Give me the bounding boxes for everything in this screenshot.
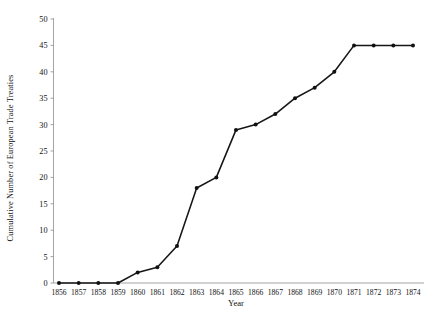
- x-tick-label: 1864: [209, 288, 224, 297]
- series-line-treaties: [59, 45, 413, 283]
- x-tick-label: 1858: [91, 288, 106, 297]
- y-tick-label: 15: [39, 200, 47, 209]
- y-tick-label: 35: [39, 94, 47, 103]
- x-tick-label: 1865: [228, 288, 243, 297]
- x-tick-label: 1870: [327, 288, 342, 297]
- x-tick-label: 1868: [287, 288, 302, 297]
- x-tick-label: 1872: [366, 288, 381, 297]
- x-tick-label: 1857: [71, 288, 86, 297]
- x-tick-label: 1874: [405, 288, 420, 297]
- data-point: [195, 186, 199, 190]
- x-tick-label: 1866: [248, 288, 263, 297]
- x-tick-label: 1856: [51, 288, 66, 297]
- y-tick-label: 30: [39, 121, 47, 130]
- y-tick-label: 5: [43, 253, 47, 262]
- data-point: [352, 43, 356, 47]
- data-point: [273, 112, 277, 116]
- x-tick-label: 1860: [130, 288, 145, 297]
- data-point: [136, 270, 140, 274]
- y-tick-label: 0: [43, 279, 47, 288]
- data-point: [313, 86, 317, 90]
- y-tick-label: 40: [39, 68, 47, 77]
- x-axis-ticks: 1856185718581859186018611862186318641865…: [51, 288, 420, 297]
- data-point: [155, 265, 159, 269]
- data-point: [391, 43, 395, 47]
- data-point: [234, 128, 238, 132]
- x-tick-label: 1871: [346, 288, 361, 297]
- y-tick-label: 50: [39, 15, 47, 24]
- y-tick-label: 20: [39, 173, 47, 182]
- y-tick-label: 45: [39, 41, 47, 50]
- y-axis-ticks: 05101520253035404550: [39, 15, 53, 288]
- data-point: [293, 96, 297, 100]
- x-tick-label: 1863: [189, 288, 204, 297]
- y-tick-label: 10: [39, 226, 47, 235]
- data-point: [96, 281, 100, 285]
- x-tick-label: 1873: [386, 288, 401, 297]
- x-tick-label: 1859: [110, 288, 125, 297]
- y-tick-label: 25: [39, 147, 47, 156]
- data-point: [372, 43, 376, 47]
- data-point: [57, 281, 61, 285]
- data-point: [332, 70, 336, 74]
- x-tick-label: 1861: [150, 288, 165, 297]
- x-tick-label: 1869: [307, 288, 322, 297]
- line-chart-plot: 05101520253035404550 1856185718581859186…: [0, 0, 433, 316]
- data-point: [254, 123, 258, 127]
- chart-container: Cumulative Number of European Trade Trea…: [0, 0, 433, 316]
- x-tick-label: 1867: [268, 288, 283, 297]
- series-markers: [57, 43, 415, 285]
- data-point: [411, 43, 415, 47]
- data-point: [175, 244, 179, 248]
- data-point: [77, 281, 81, 285]
- data-point: [214, 175, 218, 179]
- data-point: [116, 281, 120, 285]
- x-tick-label: 1862: [169, 288, 184, 297]
